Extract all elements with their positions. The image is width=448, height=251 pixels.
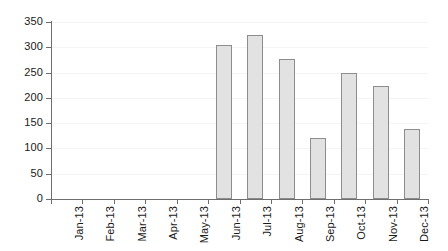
y-axis-tick-label: 250 (3, 67, 43, 78)
x-axis-tick-label: Apr-13 (167, 206, 179, 251)
x-axis-tick (397, 200, 398, 204)
x-axis-tick-label: Aug-13 (293, 206, 305, 251)
y-axis-tick-label: 300 (3, 41, 43, 52)
y-axis-labels: 050100150200250300350 (0, 0, 43, 251)
x-axis-tick (82, 200, 83, 204)
x-axis-tick (51, 200, 52, 204)
x-axis-tick (365, 200, 366, 204)
x-axis-tick (428, 200, 429, 204)
x-axis-tick (302, 200, 303, 204)
x-axis-tick-label: Dec-13 (418, 206, 430, 251)
bar (341, 73, 357, 199)
x-axis-tick-label: Sep-13 (324, 206, 336, 251)
bar (279, 59, 295, 199)
x-axis-tick (114, 200, 115, 204)
y-axis-tick-label: 100 (3, 142, 43, 153)
x-axis-tick-label: Jul-13 (261, 206, 273, 251)
bar (310, 138, 326, 199)
bar (373, 86, 389, 199)
y-axis-tick-label: 0 (3, 193, 43, 204)
y-axis-tick-label: 150 (3, 117, 43, 128)
x-axis-tick (145, 200, 146, 204)
x-axis-tick (177, 200, 178, 204)
x-axis-tick (240, 200, 241, 204)
x-axis-tick-label: Mar-13 (136, 206, 148, 251)
y-axis-tick-label: 50 (3, 168, 43, 179)
bar (404, 129, 420, 199)
x-axis-tick-label: Oct-13 (355, 206, 367, 251)
x-axis-tick (208, 200, 209, 204)
bar (247, 35, 263, 199)
x-axis-tick-label: Feb-13 (104, 206, 116, 251)
plot-area (51, 22, 428, 199)
bar-chart: 050100150200250300350 Jan-13Feb-13Mar-13… (0, 0, 448, 251)
bar (216, 45, 232, 199)
y-axis-tick-label: 350 (3, 16, 43, 27)
x-axis-tick (271, 200, 272, 204)
x-axis-tick-label: Jan-13 (73, 206, 85, 251)
x-axis-tick (334, 200, 335, 204)
x-axis-tick-label: Jun-13 (230, 206, 242, 251)
x-axis-tick-label: Nov-13 (387, 206, 399, 251)
x-axis-tick-label: May-13 (198, 206, 210, 251)
y-axis-tick-label: 200 (3, 92, 43, 103)
